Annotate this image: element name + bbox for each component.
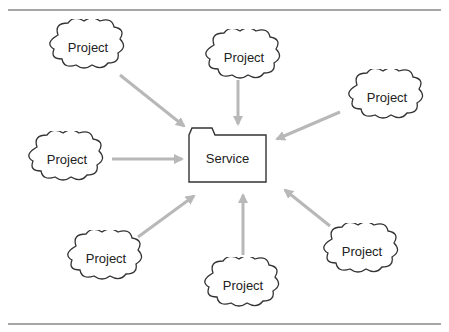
- project-label: Project: [68, 40, 109, 55]
- project-label: Project: [47, 152, 88, 167]
- service-folder[interactable]: Service: [189, 128, 266, 182]
- service-projects-diagram: Service ProjectProjectProjectProjectProj…: [0, 0, 449, 332]
- arrow: [285, 190, 330, 226]
- project-label: Project: [223, 278, 264, 293]
- service-label: Service: [206, 151, 249, 166]
- project-cloud[interactable]: Project: [205, 256, 279, 306]
- project-cloud[interactable]: Project: [349, 68, 423, 118]
- project-cloud[interactable]: Project: [206, 28, 280, 78]
- arrow: [138, 196, 194, 237]
- project-cloud[interactable]: Project: [324, 222, 398, 272]
- project-cloud[interactable]: Project: [68, 229, 142, 279]
- arrow: [120, 75, 184, 126]
- project-label: Project: [342, 244, 383, 259]
- project-cloud[interactable]: Project: [50, 18, 124, 68]
- arrow: [277, 112, 340, 139]
- project-label: Project: [224, 50, 265, 65]
- project-label: Project: [367, 90, 408, 105]
- project-cloud[interactable]: Project: [29, 130, 103, 180]
- diagram-svg: Service ProjectProjectProjectProjectProj…: [0, 0, 449, 332]
- project-label: Project: [86, 251, 127, 266]
